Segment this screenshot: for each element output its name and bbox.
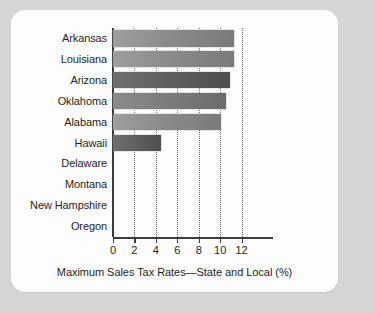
- category-label: Arkansas: [11, 28, 107, 49]
- screenshot-root: Arkansas Louisiana Arizona Oklahoma Alab…: [0, 0, 375, 313]
- bar-arizona: [113, 72, 230, 89]
- category-label: Montana: [11, 174, 107, 195]
- bar-alabama: [113, 114, 221, 131]
- x-axis-tick: [242, 237, 243, 243]
- bar-chart: Arkansas Louisiana Arizona Oklahoma Alab…: [11, 10, 338, 292]
- plot-area: [113, 28, 273, 237]
- chart-card: Arkansas Louisiana Arizona Oklahoma Alab…: [11, 10, 338, 292]
- gridline: [242, 28, 243, 237]
- x-axis-tick: [177, 237, 178, 243]
- category-label: Louisiana: [11, 49, 107, 70]
- category-label: New Hampshire: [11, 195, 107, 216]
- bar-oklahoma: [113, 93, 226, 110]
- category-axis-labels: Arkansas Louisiana Arizona Oklahoma Alab…: [11, 28, 107, 237]
- category-label: Hawaii: [11, 133, 107, 154]
- x-axis-tick: [156, 237, 157, 243]
- bar-louisiana: [113, 51, 234, 68]
- category-label: Oklahoma: [11, 91, 107, 112]
- x-axis-tick: [113, 237, 114, 243]
- category-label: Alabama: [11, 112, 107, 133]
- x-axis-tick: [220, 237, 221, 243]
- x-axis-tick: [134, 237, 135, 243]
- x-axis-tick: [199, 237, 200, 243]
- x-tick-label: 12: [229, 244, 255, 256]
- category-label: Delaware: [11, 153, 107, 174]
- bar-arkansas: [113, 30, 234, 47]
- x-axis-title: Maximum Sales Tax Rates—State and Local …: [11, 266, 338, 278]
- category-label: Oregon: [11, 216, 107, 237]
- bar-hawaii: [113, 135, 161, 152]
- category-label: Arizona: [11, 70, 107, 91]
- x-axis-line: [113, 237, 273, 239]
